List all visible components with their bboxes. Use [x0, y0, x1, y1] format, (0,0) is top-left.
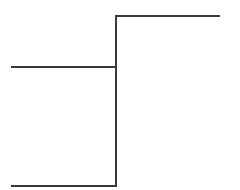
diagram-canvas — [0, 0, 240, 190]
connector-diagram — [0, 0, 240, 190]
